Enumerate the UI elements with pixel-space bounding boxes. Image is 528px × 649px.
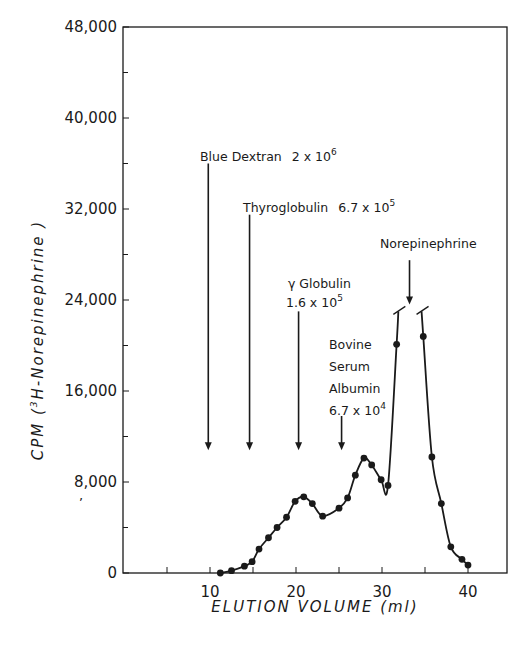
stray-mark: , (79, 488, 83, 503)
data-point (228, 567, 235, 574)
data-point (393, 341, 400, 348)
data-point (420, 333, 427, 340)
label-norepinephrine: Norepinephrine (380, 236, 477, 251)
data-point (283, 514, 290, 521)
y-tick-label: 32,000 (65, 200, 118, 218)
data-point (447, 543, 454, 550)
axis-break-mark (393, 306, 405, 314)
axis-ticks: 08,00016,00024,00032,00040,00048,0001020… (65, 18, 478, 601)
x-axis-title: ELUTION VOLUME (ml) (211, 598, 418, 616)
y-tick-label: 0 (107, 564, 117, 582)
label-bsa-line2: Serum (329, 359, 370, 374)
arrow-down-icon (406, 297, 413, 305)
data-point (319, 513, 326, 520)
x-tick-label: 40 (458, 583, 477, 601)
data-point (300, 493, 307, 500)
label-gamma-globulin: γ Globulin (288, 276, 351, 291)
arrow-down-icon (246, 442, 253, 450)
data-point (274, 524, 281, 531)
label-bsa-line1: Bovine (329, 337, 372, 352)
data-point (352, 472, 359, 479)
data-point (361, 455, 368, 462)
data-point (385, 482, 392, 489)
data-point (336, 505, 343, 512)
y-tick-label: 48,000 (65, 18, 118, 36)
data-point (428, 454, 435, 461)
elution-chart: 08,00016,00024,00032,00040,00048,0001020… (0, 0, 528, 649)
data-point (438, 500, 445, 507)
data-point (256, 546, 263, 553)
label-gamma-globulin-mw: 1.6 x 105 (286, 293, 343, 310)
label-bsa-mw: 6.7 x 104 (329, 401, 386, 418)
data-point (465, 562, 472, 569)
arrow-down-icon (338, 442, 345, 450)
label-blue-dextran: Blue Dextran2 x 106 (200, 147, 337, 164)
data-point (344, 495, 351, 502)
data-point (265, 534, 272, 541)
data-point (249, 558, 256, 565)
y-tick-label: 40,000 (65, 109, 118, 127)
y-tick-label: 24,000 (65, 291, 118, 309)
data-point (217, 570, 224, 577)
y-tick-label: 16,000 (65, 382, 118, 400)
data-point (378, 476, 385, 483)
data-point (368, 462, 375, 469)
y-axis-title: CPM (3H-Norepinephrine ) (29, 220, 47, 460)
data-point (241, 563, 248, 570)
arrow-down-icon (295, 442, 302, 450)
data-point (309, 500, 316, 507)
data-point (459, 556, 466, 563)
data-point (292, 498, 299, 505)
label-bsa-line3: Albumin (329, 381, 380, 396)
curve-descending (422, 311, 468, 565)
label-thyroglobulin: Thyroglobulin6.7 x 105 (242, 198, 395, 215)
arrow-down-icon (205, 442, 212, 450)
